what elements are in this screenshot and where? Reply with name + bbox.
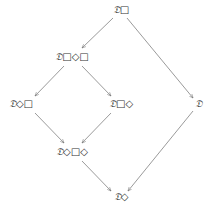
edge-n5-n7 xyxy=(128,111,193,191)
edge-n1-n5 xyxy=(127,18,193,98)
d-symbol: 𝔇 xyxy=(113,4,120,15)
node-d: 𝔇 xyxy=(195,98,202,110)
edge-n2-n3 xyxy=(35,66,64,96)
modal-operators: □◇□ xyxy=(62,51,89,62)
node-d-diamond-box: 𝔇◇□ xyxy=(9,98,33,110)
edge-n1-n2 xyxy=(82,18,113,48)
node-d-box: 𝔇□ xyxy=(113,4,129,16)
edge-n6-n7 xyxy=(82,161,111,191)
modal-operators: ◇ xyxy=(121,191,129,202)
d-symbol: 𝔇 xyxy=(9,98,16,109)
lattice-diagram: 𝔇□ 𝔇□◇□ 𝔇◇□ 𝔇□◇ 𝔇 𝔇◇□◇ 𝔇◇ xyxy=(0,0,213,216)
node-d-box-diamond: 𝔇□◇ xyxy=(109,98,133,110)
edge-n4-n6 xyxy=(82,113,111,143)
d-symbol: 𝔇 xyxy=(195,98,202,109)
d-symbol: 𝔇 xyxy=(109,98,116,109)
edge-n2-n4 xyxy=(82,66,111,96)
node-d-diamond: 𝔇◇ xyxy=(114,191,129,203)
modal-operators: ◇□ xyxy=(16,98,33,109)
node-d-box-diamond-box: 𝔇□◇□ xyxy=(55,51,89,63)
modal-operators: □◇ xyxy=(116,98,133,109)
d-symbol: 𝔇 xyxy=(55,51,62,62)
modal-operators: □ xyxy=(120,4,129,15)
d-symbol: 𝔇 xyxy=(114,191,121,202)
modal-operators: ◇□◇ xyxy=(63,146,88,157)
edge-n3-n6 xyxy=(35,113,64,143)
d-symbol: 𝔇 xyxy=(56,146,63,157)
node-d-diamond-box-diamond: 𝔇◇□◇ xyxy=(56,146,88,158)
